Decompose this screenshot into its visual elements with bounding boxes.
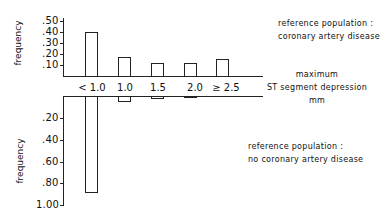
lower-tick-mark xyxy=(60,140,64,141)
lower-note-line2: no coronary artery disease xyxy=(248,153,363,166)
upper-bar-ge-2.5 xyxy=(216,59,229,77)
lower-bar-2.0 xyxy=(184,96,197,98)
lower-tick: .20 xyxy=(42,113,59,123)
lower-tick-mark xyxy=(60,183,64,184)
upper-note: reference population : coronary artery d… xyxy=(278,17,380,43)
upper-tick-mark xyxy=(60,54,64,55)
x-axis-title-line3: mm xyxy=(262,94,372,107)
upper-tick-mark xyxy=(60,65,64,66)
upper-tick: .50 xyxy=(42,16,59,26)
upper-tick-mark xyxy=(60,32,64,33)
upper-tick: .40 xyxy=(42,27,59,37)
x-label: ≥ 2.5 xyxy=(211,82,241,93)
lower-tick: .80 xyxy=(42,178,59,188)
lower-y-axis-label: frequency xyxy=(15,131,25,191)
upper-note-line2: coronary artery disease xyxy=(278,30,380,43)
upper-tick: .30 xyxy=(42,38,59,48)
lower-tick-mark xyxy=(60,118,64,119)
upper-y-axis-label: frequency xyxy=(13,13,23,73)
upper-bar-1.5 xyxy=(151,63,164,77)
lower-bar-1.5 xyxy=(151,96,164,99)
upper-bar-lt-1.0 xyxy=(85,32,98,77)
upper-tick: .10 xyxy=(42,60,59,70)
x-label: 1.5 xyxy=(143,82,173,93)
lower-tick: 1.00 xyxy=(36,200,59,210)
lower-tick-mark xyxy=(60,205,64,206)
lower-bar-lt-1.0 xyxy=(85,96,98,193)
x-axis-title: maximum ST segment depression mm xyxy=(262,68,372,107)
lower-y-axis-line xyxy=(63,96,64,206)
x-label: 2.0 xyxy=(180,82,210,93)
upper-bar-1.0 xyxy=(118,57,131,77)
lower-bar-1.0 xyxy=(118,96,131,102)
upper-bar-2.0 xyxy=(184,63,197,77)
lower-tick-mark xyxy=(60,162,64,163)
lower-tick: .40 xyxy=(42,135,59,145)
lower-note-line1: reference population : xyxy=(248,140,363,153)
upper-y-axis-line xyxy=(63,18,64,76)
x-label: 1.0 xyxy=(110,82,140,93)
upper-tick-mark xyxy=(60,43,64,44)
x-axis-title-line1: maximum xyxy=(262,68,372,81)
upper-tick: .20 xyxy=(42,49,59,59)
lower-tick: .60 xyxy=(42,157,59,167)
upper-note-line1: reference population : xyxy=(278,17,380,30)
x-label: < 1.0 xyxy=(77,82,107,93)
lower-note: reference population : no coronary arter… xyxy=(248,140,363,166)
x-axis-title-line2: ST segment depression xyxy=(262,81,372,94)
upper-tick-mark xyxy=(60,21,64,22)
